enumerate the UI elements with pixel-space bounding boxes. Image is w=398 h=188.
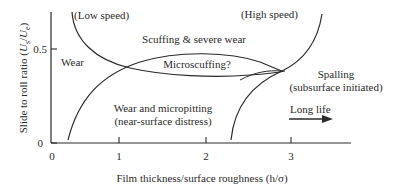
long-life-arrow-icon [322, 115, 333, 123]
y-axis-label-prefix: Slide to roll ratio ( [17, 52, 30, 134]
x-tick-label-1: 1 [116, 150, 122, 162]
x-axis-label: Film thickness/surface roughness (h/σ) [116, 172, 288, 185]
y-tick-label-0.5: 0.5 [33, 43, 47, 55]
long-life-label: Long life [290, 103, 331, 115]
region-wear: Wear [61, 56, 84, 68]
y-axis-label-suffix: ) [17, 22, 30, 26]
x-tick-label-2: 2 [203, 150, 209, 162]
low-speed-label: (Low speed) [74, 9, 130, 22]
region-micropitting: Wear and micropitting [114, 102, 213, 114]
y-axis-label: Slide to roll ratio (Us/Ue) [17, 22, 32, 133]
y-tick-label-0: 0 [38, 137, 44, 149]
region-scuffing: Scuffing & severe wear [142, 33, 246, 45]
x-tick-label-3: 3 [288, 150, 294, 162]
regime-diagram: 0.5 0 0 1 2 3 Film thickness/surface rou… [0, 0, 398, 188]
x-tick-label-0: 0 [49, 150, 55, 162]
region-micropitting-sub: (near-surface distress) [114, 115, 212, 128]
region-spalling: Spalling [318, 68, 355, 80]
region-spalling-sub: (subsurface initiated) [289, 81, 382, 94]
high-speed-label: (High speed) [241, 8, 298, 21]
region-microscuffing: Microscuffing? [163, 58, 231, 70]
